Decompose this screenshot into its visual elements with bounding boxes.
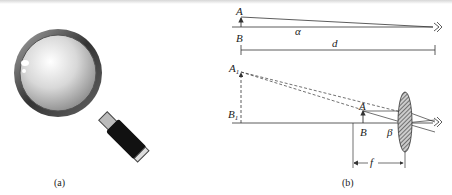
figure-canvas: (a) A B α d A1 B1 A B β f (b) [0, 0, 452, 195]
label-A-bottom: A [358, 100, 366, 112]
label-alpha: α [295, 25, 301, 37]
label-d: d [332, 37, 338, 49]
label-f: f [370, 156, 375, 168]
top-ray-diagram [232, 17, 442, 55]
caption-b: (b) [342, 177, 354, 189]
label-B-bottom: B [360, 126, 367, 138]
label-beta: β [386, 126, 393, 138]
bottom-ray-diagram [232, 72, 442, 168]
lens [398, 92, 412, 152]
label-A1: A1 [228, 62, 239, 76]
eye-icon [434, 22, 442, 32]
label-B1: B1 [228, 108, 238, 122]
label-B-top: B [236, 32, 243, 44]
magnifying-glass-icon [14, 29, 150, 163]
eye-icon-2 [434, 117, 442, 127]
caption-a: (a) [54, 177, 65, 189]
label-A-top: A [235, 5, 243, 17]
